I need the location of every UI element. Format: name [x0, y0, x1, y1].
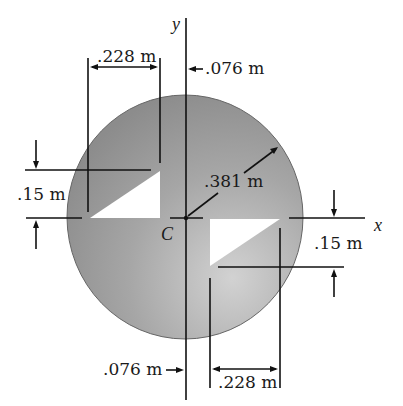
top-width-label: .228 m — [97, 46, 156, 66]
y-axis-label: y — [170, 14, 180, 34]
diagram-canvas: y x C .228 m .076 m .15 m .381 m .15 m .… — [0, 0, 403, 406]
centroid-label: C — [161, 224, 174, 244]
centroid-point — [184, 216, 188, 220]
x-axis-label: x — [373, 215, 382, 235]
bottom-width-label: .228 m — [218, 372, 277, 392]
arrow-up-icon — [331, 269, 337, 277]
top-offset-label: .076 m — [205, 58, 264, 78]
left-height-label: .15 m — [17, 184, 66, 204]
arrow-down-icon — [331, 209, 337, 217]
arrow-down-icon — [33, 161, 39, 169]
arrow-right-icon — [176, 367, 184, 373]
right-height-label: .15 m — [314, 233, 363, 253]
radius-label: .381 m — [204, 171, 263, 191]
arrow-up-icon — [33, 220, 39, 228]
arrow-left-icon — [188, 66, 196, 72]
bottom-offset-label: .076 m — [103, 359, 162, 379]
